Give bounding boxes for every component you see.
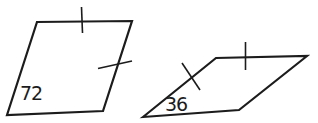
geometry-figure: 72 36 <box>0 0 318 123</box>
parallelogram-left-group: 72 <box>7 7 132 115</box>
tick-mark-left-side <box>182 63 200 90</box>
parallelograms-canvas: 72 36 <box>0 0 318 123</box>
measure-label-left: 72 <box>20 82 42 104</box>
parallelogram-right-group: 36 <box>143 42 307 117</box>
measure-label-right: 36 <box>165 93 187 115</box>
tick-mark-top-side <box>82 7 83 33</box>
tick-mark-right-side <box>98 61 132 69</box>
